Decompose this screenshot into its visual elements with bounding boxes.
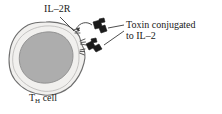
toxin-leader-line-lower (104, 31, 124, 45)
il2r-label: IL–2R (44, 4, 71, 15)
toxin-conjugate-label: Toxin conjugated to IL–2 (126, 20, 196, 42)
toxin-il2-conjugate-lower (86, 38, 102, 52)
cell-nucleus (19, 32, 73, 83)
toxin-leader-line-upper (108, 25, 124, 28)
cell-toxin-diagram: IL–2R Toxin conjugated to IL–2 TH cell (0, 0, 222, 114)
toxin-label-line1: Toxin conjugated (126, 19, 196, 30)
th-cell-label-suffix: cell (40, 92, 57, 103)
th-cell-label: TH cell (29, 93, 57, 106)
toxin-il2-conjugate-upper (93, 18, 107, 33)
binding-arrow (76, 23, 92, 32)
toxin-label-line2: to IL–2 (126, 31, 196, 42)
